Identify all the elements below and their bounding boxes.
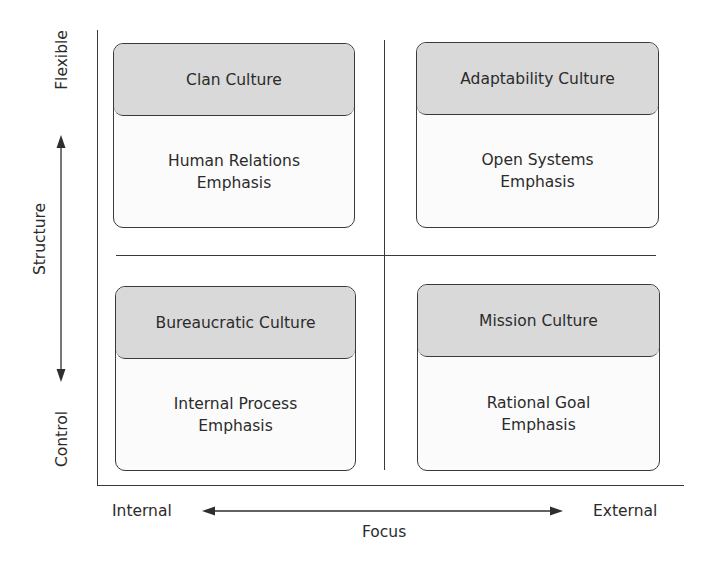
quadrant-title: Bureaucratic Culture [116,287,355,359]
quadrant-body: Open Systems Emphasis [417,115,658,227]
quadrant-body-line2: Emphasis [501,414,576,436]
quadrant-body-line1: Human Relations [168,150,300,172]
quadrant-body-line1: Open Systems [481,149,593,171]
quadrant-bureaucratic-culture: Bureaucratic Culture Internal Process Em… [115,286,356,471]
x-axis-left-label: Internal [112,502,172,520]
quadrant-body: Internal Process Emphasis [116,359,355,470]
y-axis-bottom-label: Control [53,409,71,469]
quadrant-title: Adaptability Culture [417,43,658,115]
quadrant-mission-culture: Mission Culture Rational Goal Emphasis [417,284,660,471]
quadrant-body-line2: Emphasis [198,415,273,437]
x-axis-right-label: External [593,502,657,520]
quadrant-clan-culture: Clan Culture Human Relations Emphasis [113,43,355,228]
x-axis-title: Focus [362,523,406,541]
quadrant-body-line1: Rational Goal [487,392,591,414]
quadrant-body: Rational Goal Emphasis [418,357,659,470]
quadrant-adaptability-culture: Adaptability Culture Open Systems Emphas… [416,42,659,228]
quadrant-body-line1: Internal Process [174,393,297,415]
quadrant-body-line2: Emphasis [197,172,272,194]
quadrant-title: Mission Culture [418,285,659,357]
quadrant-body: Human Relations Emphasis [114,116,354,227]
quadrant-body-line2: Emphasis [500,171,575,193]
focus-double-arrow-icon [202,507,563,516]
structure-double-arrow-icon [57,135,66,382]
y-axis-title: Structure [31,201,49,277]
y-axis-top-label: Flexible [53,30,71,90]
quadrant-title: Clan Culture [114,44,354,116]
